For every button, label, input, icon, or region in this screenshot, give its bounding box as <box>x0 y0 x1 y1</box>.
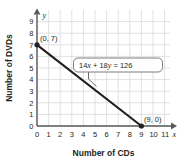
y-tick-5: 5 <box>29 64 33 73</box>
chart-background <box>0 0 185 163</box>
equation-right-side: = 126 <box>111 61 132 70</box>
y-tick-8: 8 <box>29 29 33 38</box>
data-point-0-7 <box>34 42 39 47</box>
x-tick-0: 0 <box>35 130 39 139</box>
coordinate-plane-chart: y x 0 1 2 3 4 5 6 7 8 9 10 11 0 1 2 3 4 … <box>0 0 185 163</box>
y-tick-3: 3 <box>29 87 33 96</box>
equation-callout-text: 14x + 18y = 126 <box>79 61 132 70</box>
equation-coefficient-a: 14 <box>79 61 87 70</box>
x-tick-8: 8 <box>128 130 132 139</box>
x-tick-6: 6 <box>105 130 109 139</box>
x-tick-5: 5 <box>93 130 97 139</box>
y-tick-4: 4 <box>29 75 33 84</box>
y-axis-title: Number of DVDs <box>4 34 14 102</box>
x-tick-10: 10 <box>149 130 157 139</box>
x-tick-2: 2 <box>58 130 62 139</box>
y-tick-0: 0 <box>29 122 33 131</box>
data-point-9-0 <box>139 123 144 128</box>
y-tick-7: 7 <box>29 41 33 50</box>
x-tick-9: 9 <box>139 130 143 139</box>
x-tick-3: 3 <box>70 130 74 139</box>
x-tick-1: 1 <box>47 130 51 139</box>
x-axis-symbol: x <box>172 130 177 139</box>
y-tick-9: 9 <box>29 17 33 26</box>
x-tick-11: 11 <box>161 130 169 139</box>
equation-coefficient-b: + 18 <box>91 61 108 70</box>
y-tick-2: 2 <box>29 99 33 108</box>
y-tick-1: 1 <box>29 110 33 119</box>
y-tick-6: 6 <box>29 52 33 61</box>
x-tick-4: 4 <box>81 130 85 139</box>
point-label-9-0: (9, 0) <box>144 115 162 124</box>
x-axis-title: Number of CDs <box>73 148 135 158</box>
point-label-0-7: (0, 7) <box>40 34 58 43</box>
x-tick-7: 7 <box>116 130 120 139</box>
y-axis-symbol: y <box>42 11 47 20</box>
